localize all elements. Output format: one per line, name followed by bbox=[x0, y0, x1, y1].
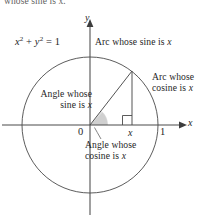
arc-whose-cosine-label: Arc whosecosine is x bbox=[152, 72, 204, 93]
y-axis-label: y bbox=[85, 12, 90, 23]
angle-cosine-leader-line bbox=[95, 128, 102, 140]
arc-whose-sine-label: Arc whose sine is x bbox=[95, 37, 172, 48]
cutoff-header-text: whose sine is x. bbox=[4, 0, 66, 7]
equation-equals-one: = 1 bbox=[43, 36, 60, 47]
angle-whose-sine-label: Angle whosesine is x bbox=[26, 89, 92, 110]
angle-whose-cosine-label: Angle whosecosine is x bbox=[85, 140, 153, 161]
unit-circle-graphic bbox=[0, 0, 204, 222]
x-axis-arrowhead bbox=[179, 122, 187, 129]
unit-circle-figure: whose sine is x. x2 + y2 = 1 Arc whose s… bbox=[0, 0, 204, 222]
circle-equation-label: x2 + y2 = 1 bbox=[15, 36, 60, 48]
x-axis-label: x bbox=[188, 117, 193, 128]
tick-label-one: 1 bbox=[160, 126, 165, 138]
right-angle-marker bbox=[123, 116, 133, 126]
radius-hypotenuse-line bbox=[90, 71, 132, 125]
tick-label-x: x bbox=[128, 127, 133, 138]
equation-plus: + bbox=[23, 36, 34, 47]
tick-label-zero: 0 bbox=[78, 126, 83, 138]
